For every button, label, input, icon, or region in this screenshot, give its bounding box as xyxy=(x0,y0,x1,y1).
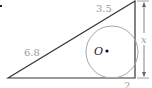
diagram-canvas: 3.5 6.8 O x 2 xyxy=(0,0,152,88)
label-hypotenuse-upper: 3.5 xyxy=(96,3,112,14)
label-x: x xyxy=(141,34,147,45)
center-point xyxy=(105,49,108,52)
right-triangle xyxy=(8,1,135,78)
corner-mark xyxy=(0,5,2,7)
label-hypotenuse-lower: 6.8 xyxy=(24,47,40,58)
label-center-o: O xyxy=(94,45,103,58)
label-bottom-segment: 2 xyxy=(124,80,130,88)
